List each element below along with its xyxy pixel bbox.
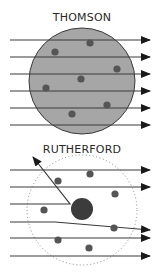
electron-dot [85,244,92,251]
deflected-ray-arrow [10,222,150,230]
atom-models-diagram [0,0,164,279]
electron-dot [86,39,93,46]
thomson-model [10,28,150,134]
nucleus [71,198,93,220]
electron-dot [77,75,84,82]
electron-dot [68,110,75,117]
electron-dot [42,84,49,91]
electron-dot [86,170,93,177]
electron-dot [51,48,58,55]
electron-dot [110,224,117,231]
electron-dot [54,236,61,243]
electron-dot [54,177,61,184]
electron-dot [103,101,110,108]
rutherford-model [10,155,150,265]
electron-dot [113,65,120,72]
electron-dot [111,190,118,197]
electron-dot [40,206,47,213]
